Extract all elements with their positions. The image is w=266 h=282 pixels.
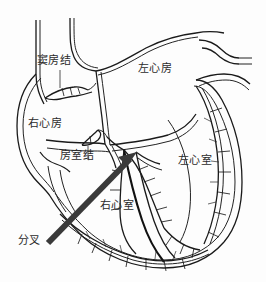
aorta-trunk	[70, 18, 98, 71]
heart-conduction-system-figure: 窦房结 右心房 左心房 房室结 左心室 右心室 分叉	[0, 0, 266, 282]
label-right-atrium: 右心房	[28, 118, 62, 129]
left-ventricle-cavity	[168, 120, 191, 242]
pulmonary-vein-upper	[196, 32, 252, 65]
label-left-ventricle: 左心室	[178, 155, 212, 166]
mitral-valve	[136, 152, 162, 170]
purkinje-fibers-bottom	[60, 214, 209, 271]
sa-node-mark	[45, 83, 96, 100]
atrial-septum	[96, 71, 110, 145]
left-atrium-floor	[110, 114, 198, 151]
label-right-ventricle: 右心室	[100, 200, 134, 211]
label-bifurcation: 分叉	[18, 235, 41, 246]
label-sa-node: 窦房结	[37, 55, 71, 66]
label-left-atrium: 左心房	[138, 63, 172, 74]
label-av-node: 房室结	[60, 150, 94, 161]
